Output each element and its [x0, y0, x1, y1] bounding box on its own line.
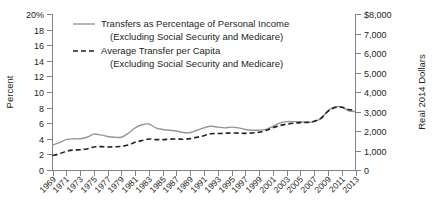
series-transfers-percent-line — [53, 106, 356, 145]
right-axis-tick-label: 7,000 — [364, 30, 387, 40]
left-axis-ticks — [47, 15, 53, 171]
left-axis-tick-label: 16 — [34, 41, 44, 51]
right-axis-tick-label: $8,000 — [364, 10, 392, 20]
left-axis-tick-label: 18 — [34, 26, 44, 36]
left-axis-tick-label: 8 — [39, 104, 44, 114]
left-axis-tick-label: 4 — [39, 135, 44, 145]
left-axis-tick-labels: 20%181614121086420 — [26, 10, 44, 176]
left-axis-tick-label: 20% — [26, 10, 44, 20]
right-axis-tick-label: 5,000 — [364, 69, 387, 79]
legend-label-transfers-percent-line2: (Excluding Social Security and Medicare) — [110, 31, 283, 42]
right-axis-tick-labels: $8,0007,0006,0005,0004,0003,0002,0001,00… — [364, 10, 392, 176]
right-axis-group: $8,0007,0006,0005,0004,0003,0002,0001,00… — [356, 10, 428, 176]
transfers-line-chart: 20%181614121086420 Percent $8,0007,0006,… — [0, 0, 435, 210]
right-axis-ticks — [356, 15, 362, 171]
right-axis-tick-label: 3,000 — [364, 108, 387, 118]
x-axis-year-label: 2013 — [340, 174, 361, 195]
right-axis-tick-label: 4,000 — [364, 88, 387, 98]
left-axis-group: 20%181614121086420 Percent — [4, 10, 53, 176]
right-axis-tick-label: 6,000 — [364, 49, 387, 59]
plot-area — [53, 106, 356, 155]
right-axis-tick-label: 1,000 — [364, 147, 387, 157]
right-axis-tick-label: 2,000 — [364, 127, 387, 137]
right-axis-title: Real 2014 Dollars — [416, 54, 427, 130]
left-axis-tick-label: 14 — [34, 57, 44, 67]
chart-container: 20%181614121086420 Percent $8,0007,0006,… — [0, 0, 435, 210]
left-axis-tick-label: 6 — [39, 119, 44, 129]
left-axis-title: Percent — [4, 75, 15, 108]
legend: Transfers as Percentage of Personal Inco… — [73, 18, 289, 69]
left-axis-tick-label: 10 — [34, 88, 44, 98]
x-axis-year-labels: 1969197119731975197719791981198319851987… — [37, 174, 361, 195]
x-axis-group: 1969197119731975197719791981198319851987… — [37, 171, 361, 195]
legend-label-transfer-per-capita-line2: (Excluding Social Security and Medicare) — [110, 58, 283, 69]
right-axis-tick-label: 0 — [364, 166, 369, 176]
left-axis-tick-label: 0 — [39, 166, 44, 176]
left-axis-tick-label: 2 — [39, 150, 44, 160]
left-axis-tick-label: 12 — [34, 72, 44, 82]
legend-label-transfer-per-capita-line1: Average Transfer per Capita — [101, 45, 221, 56]
legend-label-transfers-percent-line1: Transfers as Percentage of Personal Inco… — [101, 18, 289, 29]
series-transfer-per-capita-line — [53, 107, 356, 156]
